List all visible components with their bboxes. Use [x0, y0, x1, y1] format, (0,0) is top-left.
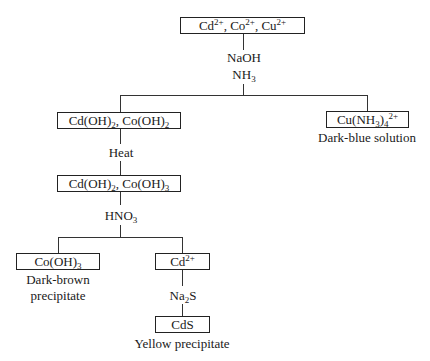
connector: [243, 84, 244, 95]
node-cobalt-hydroxide: Co(OH)3: [16, 253, 100, 270]
connector: [120, 95, 121, 112]
caption-precipitate: precipitate: [31, 289, 86, 302]
node-start-ions: Cd2+, Co2+, Cu2+: [180, 17, 305, 34]
connector: [58, 237, 183, 238]
node-hydroxides-1: Cd(OH)2, Co(OH)2: [57, 112, 181, 129]
connector: [120, 191, 121, 205]
reagent-hno3: HNO3: [105, 209, 138, 222]
connector: [367, 95, 368, 111]
caption-dark-brown: Dark-brown: [26, 273, 90, 286]
connector: [120, 95, 368, 96]
reagent-nh3: NH3: [232, 68, 255, 81]
caption-yellow-precipitate: Yellow precipitate: [134, 337, 229, 350]
node-hydroxides-2: Cd(OH)2, Co(OH)3: [57, 175, 181, 192]
reagent-naoh: NaOH: [227, 51, 261, 64]
connector: [120, 161, 121, 175]
node-cadmium-sulfide: CdS: [155, 316, 210, 333]
connector: [243, 33, 244, 50]
node-copper-complex: Cu(NH3)42+: [326, 111, 409, 128]
connector: [120, 225, 121, 237]
reagent-heat: Heat: [109, 146, 134, 159]
connector: [182, 269, 183, 286]
connector: [120, 128, 121, 144]
connector: [58, 237, 59, 253]
node-cadmium-ion: Cd2+: [155, 253, 210, 270]
connector: [182, 304, 183, 316]
separation-flowchart: Cd2+, Co2+, Cu2+ NaOH NH3 Cd(OH)2, Co(OH…: [0, 0, 430, 361]
reagent-na2s: Na2S: [170, 289, 197, 302]
caption-dark-blue-solution: Dark-blue solution: [318, 131, 416, 144]
connector: [182, 237, 183, 253]
